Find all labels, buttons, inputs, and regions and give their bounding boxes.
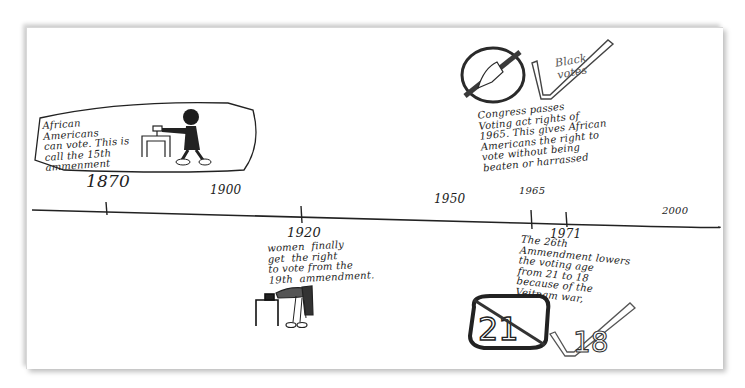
axis-label-2000: 2000 bbox=[662, 206, 688, 217]
ballot-box-icon bbox=[256, 294, 278, 326]
tick-1920 bbox=[301, 206, 302, 223]
event-1870-text: African Americans can vote. This is call… bbox=[42, 115, 131, 173]
crossed-out-21-icon: 21 bbox=[470, 296, 548, 348]
timeline-drawing: 21 18 bbox=[0, 0, 745, 388]
black-votes-caption: Black votes bbox=[554, 52, 590, 80]
event-1965-text: Congress passes Voting act rights of 196… bbox=[477, 98, 610, 174]
event-1971-text: The 26th Ammendment lowers the voting ag… bbox=[515, 234, 632, 308]
checkmark-18-icon: 18 bbox=[550, 303, 635, 359]
crossed-out-hand-icon bbox=[462, 48, 524, 102]
tick-1870 bbox=[106, 202, 107, 215]
woman-voter-figure-icon bbox=[276, 286, 313, 328]
tick-1971 bbox=[566, 212, 567, 227]
new-age-18: 18 bbox=[573, 326, 609, 359]
event-1920-text: women finally get the right to vote from… bbox=[267, 238, 375, 285]
axis-label-1950: 1950 bbox=[434, 193, 465, 206]
voter-figure-icon bbox=[162, 109, 211, 165]
event-1920-year: 1920 bbox=[287, 226, 321, 240]
timeline-axis bbox=[32, 210, 720, 228]
event-1965-year: 1965 bbox=[519, 186, 545, 197]
tick-1965 bbox=[531, 210, 532, 229]
axis-label-1900: 1900 bbox=[210, 184, 241, 197]
event-1870-year: 1870 bbox=[86, 173, 130, 191]
